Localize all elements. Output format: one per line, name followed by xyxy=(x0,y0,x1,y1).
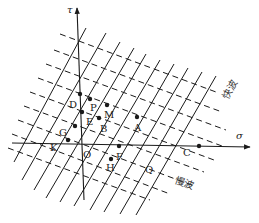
point-C xyxy=(197,144,201,148)
solid-line xyxy=(120,72,202,214)
point-H xyxy=(109,157,113,161)
dashed-line xyxy=(46,64,226,130)
characteristics-diagram: τ σ 快波 慢波 D P M E B A G K O F H Q C xyxy=(0,0,259,223)
label-E: E xyxy=(86,116,93,127)
point-E xyxy=(80,110,84,114)
label-G: G xyxy=(59,127,67,138)
point-G xyxy=(73,124,77,128)
fast-wave-label: 快波 xyxy=(219,78,239,101)
sigma-axis xyxy=(12,143,250,147)
point-F xyxy=(117,144,121,148)
slow-wave-lines xyxy=(8,34,226,200)
point-M xyxy=(105,103,109,107)
dashed-line xyxy=(60,34,216,92)
point-P xyxy=(88,97,92,101)
axes xyxy=(12,8,250,200)
tau-axis-label: τ xyxy=(67,4,73,15)
label-O: O xyxy=(83,149,91,160)
label-H: H xyxy=(106,162,115,173)
label-D: D xyxy=(69,99,77,110)
label-F: F xyxy=(116,151,123,162)
label-A: A xyxy=(133,122,142,133)
slow-wave-label: 慢波 xyxy=(173,174,196,192)
sigma-axis-label: σ xyxy=(236,130,244,141)
label-B: B xyxy=(100,123,107,134)
point-A xyxy=(135,115,139,119)
point-D xyxy=(78,92,82,96)
point-B xyxy=(97,116,101,120)
label-K: K xyxy=(50,142,58,153)
label-Q: Q xyxy=(145,164,153,175)
label-C: C xyxy=(183,147,191,158)
point-K xyxy=(66,138,70,142)
label-P: P xyxy=(90,102,97,113)
dashed-line xyxy=(8,148,150,200)
solid-line xyxy=(74,60,160,206)
label-M: M xyxy=(104,109,114,120)
solid-line xyxy=(90,64,174,210)
